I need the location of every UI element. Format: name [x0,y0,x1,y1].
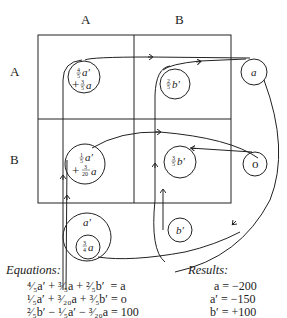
svg-text:a: a [86,79,92,91]
svg-text:b': b' [177,155,186,167]
nodes [63,59,267,261]
results-block: Results: a = −200 a′ = −150 b′ = +100 [188,263,257,318]
svg-text:4: 4 [83,247,86,253]
node-bb-label: 3 5 b' [172,155,186,167]
result-line: b′ = +100 [210,306,257,318]
svg-text:5: 5 [167,84,170,90]
svg-text:3: 3 [84,164,87,170]
equations-title: Equations: [6,263,139,278]
results-title: Results: [188,263,257,278]
svg-text:20: 20 [82,171,88,177]
node-b-prime-label: b' [176,224,185,236]
equation-line: ²⁄₅b′ − ¹⁄₅a′ − ³⁄₂₀a = 100 [27,306,139,318]
node-a-out-label: a [251,66,257,78]
svg-text:5: 5 [80,158,83,164]
node-aa-label: 4 5 a′ + 3 5 a [72,66,92,92]
svg-text:+: + [72,163,79,178]
column-label-b: B [175,12,184,27]
svg-text:a′: a′ [85,151,94,163]
node-a-prime-label: a' [83,216,92,228]
row-label-b: B [10,152,19,167]
node-zero-label: o [252,156,259,171]
svg-text:a: a [91,165,97,177]
svg-text:5: 5 [172,161,175,167]
svg-text:a: a [88,241,94,253]
svg-text:5: 5 [81,85,84,91]
svg-text:+: + [72,77,79,92]
equations-block: Equations: ⁴⁄₅a′ + ³⁄₅a + ²⁄₅b′ = a ¹⁄₅a… [6,263,139,318]
column-label-a: A [81,12,91,27]
svg-text:a′: a′ [82,66,91,78]
svg-text:3: 3 [83,240,86,246]
row-label-a: A [10,64,20,79]
node-a-inner-label: 3 4 a [83,240,95,253]
node-ab-label: 2 5 b' [167,78,181,90]
svg-text:b': b' [172,78,181,90]
node-ba-label: 1 5 a′ + 3 20 a [72,151,97,178]
